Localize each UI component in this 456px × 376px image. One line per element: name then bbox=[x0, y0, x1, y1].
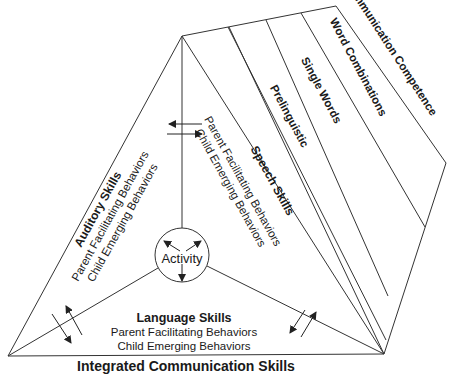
front-triangle bbox=[8, 36, 384, 356]
divider-line-2 bbox=[266, 20, 388, 296]
auditory-skills-face: Auditory Skills Parent Facilitating Beha… bbox=[56, 142, 163, 290]
top-ridge-edge bbox=[182, 6, 336, 36]
activity-label: Activity bbox=[161, 251, 203, 266]
activity-node: Activity bbox=[155, 228, 209, 282]
arrow-to-auditory-icon bbox=[164, 241, 180, 251]
bidirectional-arrow-left bbox=[52, 306, 82, 343]
language-parent-behaviors: Parent Facilitating Behaviors bbox=[111, 326, 258, 338]
language-skills-face: Language Skills Parent Facilitating Beha… bbox=[111, 311, 258, 352]
diagram-title: Integrated Communication Skills bbox=[77, 358, 295, 374]
stage-single-words: Single Words bbox=[299, 55, 344, 125]
language-child-behaviors: Child Emerging Behaviors bbox=[118, 340, 251, 352]
stage-prelinguistic: Prelinguistic bbox=[268, 83, 311, 150]
language-skills-title: Language Skills bbox=[136, 311, 231, 325]
communication-skills-diagram: Activity Auditory Skills Parent Facilita… bbox=[0, 0, 456, 376]
arrow-to-speech-icon bbox=[186, 241, 201, 251]
